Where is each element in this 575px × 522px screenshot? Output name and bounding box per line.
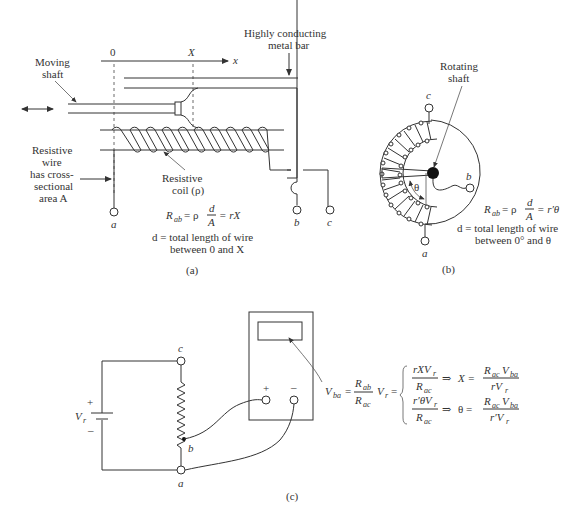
terminal-b: [466, 184, 474, 192]
resistive-coil-label: Resistive coil (ρ): [162, 152, 204, 197]
svg-text:d: d: [527, 196, 533, 208]
terminal-c-label: c: [178, 342, 183, 354]
panel-b-equation: R ab = ρ d A = r′θ: [483, 196, 560, 222]
terminal-c: [326, 206, 334, 214]
potentiometer-figure: 0 X x Highly conducting metal bar Mov: [0, 0, 575, 522]
svg-text:= ρ: = ρ: [184, 209, 199, 221]
svg-text:r: r: [506, 417, 510, 426]
case-brace: [400, 366, 407, 424]
panel-a-note: d = total length of wire: [152, 231, 253, 243]
panel-b-note-2: between 0° and θ: [475, 234, 551, 246]
voltmeter: [249, 312, 313, 420]
svg-text:R: R: [483, 203, 491, 215]
source-wire-bottom: [102, 420, 177, 470]
terminal-c: [177, 357, 185, 365]
metal-bar: Highly conducting metal bar: [124, 0, 327, 205]
terminal-c-label: c: [426, 89, 431, 101]
terminal-a: [421, 237, 429, 245]
svg-text:wire: wire: [42, 156, 62, 168]
source-minus: –: [87, 424, 94, 436]
meter-minus-label: –: [290, 381, 297, 393]
svg-text:r: r: [83, 416, 87, 425]
meter-plus-label: +: [263, 382, 269, 394]
svg-text:ab: ab: [174, 215, 182, 224]
svg-text:R: R: [415, 380, 423, 392]
axis-zero-label: 0: [110, 46, 116, 58]
panel-c-equation: V ba = R ab R ac V r = rXV r R ac ⇒ X = …: [325, 363, 519, 426]
panel-a-note-2: between 0 and X: [170, 243, 244, 255]
svg-text:= r′θ: = r′θ: [537, 203, 560, 215]
svg-text:θ =: θ =: [458, 403, 472, 415]
svg-text:R: R: [354, 394, 362, 406]
terminal-a-label: a: [111, 218, 117, 230]
svg-text:ab: ab: [363, 383, 371, 392]
svg-text:R: R: [415, 411, 423, 423]
svg-text:r: r: [434, 400, 438, 409]
svg-text:V: V: [377, 385, 385, 397]
panel-b-rotary-potentiometer: Rotating shaft: [380, 60, 560, 276]
svg-text:= rX: = rX: [219, 209, 241, 221]
svg-text:coil (ρ): coil (ρ): [172, 184, 204, 197]
svg-text:V: V: [325, 385, 333, 397]
resistor-zigzag: [177, 365, 185, 466]
probe-lead-plus: [184, 400, 262, 439]
panel-c-caption: (c): [286, 490, 299, 503]
svg-text:=: =: [345, 385, 351, 397]
shaft-hub: [427, 167, 439, 179]
terminal-c: [425, 104, 433, 112]
svg-text:d: d: [209, 202, 215, 214]
axis-x-label: x: [232, 54, 238, 66]
svg-text:r: r: [505, 386, 509, 395]
metal-bar-label-2: metal bar: [268, 39, 310, 51]
probe-lead-minus: [185, 404, 294, 470]
svg-text:r: r: [385, 391, 389, 400]
svg-text:ac: ac: [363, 400, 371, 409]
voltmeter-minus-terminal: [290, 396, 298, 404]
c-wire: [303, 170, 328, 207]
svg-text:rXV: rXV: [413, 363, 432, 375]
metal-bar-label: Highly conducting: [244, 27, 327, 39]
source-plus: +: [87, 396, 93, 408]
svg-text:Resistive: Resistive: [32, 144, 72, 156]
rotating-shaft-label: Rotating: [440, 60, 478, 72]
svg-text:X =: X =: [457, 372, 475, 384]
svg-text:A: A: [525, 210, 533, 222]
svg-text:⇒: ⇒: [442, 403, 451, 415]
svg-text:R: R: [354, 377, 362, 389]
panel-a-equation: R ab = ρ d A = rX: [165, 202, 241, 228]
panel-b-caption: (b): [442, 263, 455, 276]
svg-text:r: r: [433, 369, 437, 378]
x-axis: 0 X x: [101, 46, 238, 66]
terminal-a-label: a: [422, 247, 428, 259]
svg-text:R: R: [483, 364, 491, 376]
panel-a-caption: (a): [186, 264, 199, 277]
moving-shaft: Moving shaft: [22, 56, 198, 128]
svg-text:V: V: [502, 364, 510, 376]
svg-text:area A: area A: [39, 192, 67, 204]
axis-X-label: X: [187, 46, 196, 58]
b-lead: [433, 179, 466, 190]
svg-text:ba: ba: [333, 391, 341, 400]
terminal-a-label: a: [178, 477, 184, 489]
panel-c-measurement-circuit: + – V r c a b + – V ba = R ab R: [75, 312, 519, 503]
voltmeter-display: [258, 322, 302, 340]
moving-shaft-label: Moving: [35, 56, 70, 68]
moving-shaft-label-2: shaft: [42, 68, 63, 80]
svg-text:has cross-: has cross-: [30, 168, 74, 180]
panel-b-note: d = total length of wire: [457, 222, 558, 234]
terminal-b-label: b: [294, 216, 300, 228]
terminal-b-label: b: [188, 442, 194, 454]
terminal-c-label: c: [327, 216, 332, 228]
svg-text:= ρ: = ρ: [502, 203, 517, 215]
svg-text:V: V: [502, 395, 510, 407]
svg-text:r′θV: r′θV: [413, 394, 433, 406]
source-wire-top: [102, 361, 177, 413]
terminal-b: [293, 206, 301, 214]
terminal-a: [110, 208, 118, 216]
theta-label: θ: [414, 181, 419, 193]
resistive-coil: [112, 127, 291, 170]
svg-text:sectional: sectional: [34, 180, 73, 192]
source-label: V: [75, 410, 83, 422]
svg-text:ab: ab: [492, 209, 500, 218]
rotating-shaft-label-2: shaft: [448, 72, 469, 84]
